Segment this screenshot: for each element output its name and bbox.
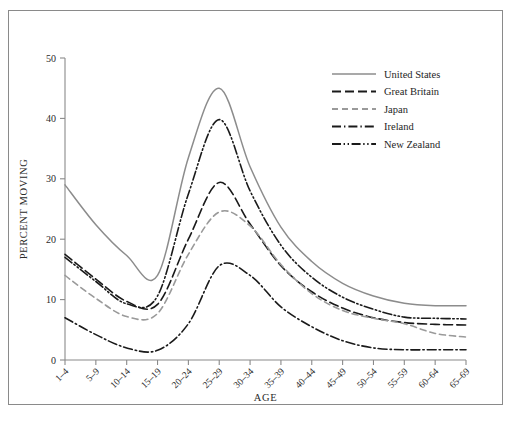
x-tick-label: 25–29 xyxy=(201,366,225,390)
y-tick-label: 50 xyxy=(46,53,56,64)
x-tick-label: 10–14 xyxy=(108,366,132,390)
legend-group: United StatesGreat BritainJapanIrelandNe… xyxy=(332,69,441,150)
x-tick-label: 35–39 xyxy=(262,366,286,390)
y-tick-label: 40 xyxy=(46,113,56,124)
line-chart: 010203040501–45–910–1415–1920–2425–2930–… xyxy=(0,0,511,425)
x-tick-label: 15–19 xyxy=(139,366,163,390)
figure-frame: 010203040501–45–910–1415–1920–2425–2930–… xyxy=(0,0,511,425)
axis-titles-group: AGEPERCENT MOVING xyxy=(18,159,277,403)
x-tick-label: 65–69 xyxy=(448,366,472,390)
x-tick-label: 45–49 xyxy=(324,366,348,390)
x-tick-label: 20–24 xyxy=(170,366,194,390)
x-tick-label: 1–4 xyxy=(53,366,70,383)
y-tick-label: 30 xyxy=(46,173,56,184)
x-tick-label: 60–64 xyxy=(417,366,441,390)
y-axis-title: PERCENT MOVING xyxy=(18,159,29,260)
x-tick-label: 30–34 xyxy=(232,366,256,390)
y-tick-label: 10 xyxy=(46,294,56,305)
y-tick-label: 20 xyxy=(46,234,56,245)
x-tick-label: 55–59 xyxy=(386,366,410,390)
x-axis-title: AGE xyxy=(254,392,277,403)
legend-label-japan: Japan xyxy=(384,104,409,115)
legend-label-great-britain: Great Britain xyxy=(384,86,440,97)
x-tick-label: 40–44 xyxy=(293,366,317,390)
legend-label-ireland: Ireland xyxy=(384,121,414,132)
x-tick-label: 50–54 xyxy=(355,366,379,390)
series-line-ireland xyxy=(65,263,466,352)
legend-label-new-zealand: New Zealand xyxy=(384,139,441,150)
x-tick-label: 5–9 xyxy=(84,366,101,383)
legend-label-united-states: United States xyxy=(384,69,440,80)
y-tick-label: 0 xyxy=(51,355,56,366)
